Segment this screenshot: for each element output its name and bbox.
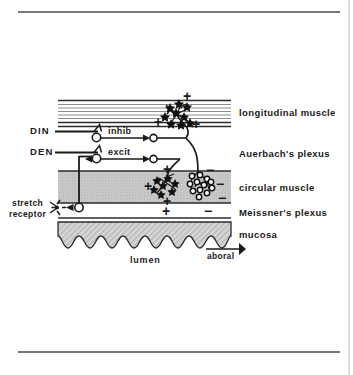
din-fiber — [55, 125, 102, 132]
den-fiber — [55, 146, 102, 153]
figure-root: DIN DEN inhib excit stretch receptor lon… — [0, 0, 353, 375]
mucosa-band — [58, 222, 231, 248]
sign-circular-minus-bottom: − — [204, 203, 213, 219]
stretch-receptor-ending — [50, 200, 60, 215]
sign-longitudinal-plus-left: + — [154, 114, 163, 130]
layer-label-longitudinal-muscle: longitudinal muscle — [239, 107, 336, 118]
sign-circular-plus-outer: + — [162, 203, 171, 219]
sign-longitudinal-plus-right: + — [192, 116, 201, 132]
inhib-neuron — [92, 133, 186, 141]
interneuron-label-inhib: inhib — [108, 126, 132, 136]
sign-plexus-plus: + — [163, 161, 172, 177]
layer-label-auerbachs-plexus: Auerbach's plexus — [239, 148, 330, 159]
aboral-label: aboral — [207, 251, 234, 261]
layer-label-meissners-plexus: Meissner's plexus — [239, 207, 327, 218]
sign-longitudinal-plus-top: + — [183, 88, 192, 104]
input-label-den: DEN — [30, 146, 53, 157]
sign-circular-plus-left: + — [144, 178, 153, 194]
interneuron-label-excit: excit — [108, 147, 131, 157]
layer-label-mucosa: mucosa — [239, 229, 277, 240]
stretch-receptor-label-line1: stretch — [12, 198, 43, 208]
layer-label-circular-muscle: circular muscle — [239, 182, 315, 193]
lumen-label: lumen — [130, 255, 161, 265]
sign-circular-minus-lower: − — [218, 190, 227, 206]
longitudinal-muscle-band — [58, 101, 231, 127]
sign-circular-minus-top: − — [206, 162, 215, 178]
stretch-receptor-label-line2: receptor — [9, 209, 46, 219]
input-label-din: DIN — [30, 125, 50, 136]
